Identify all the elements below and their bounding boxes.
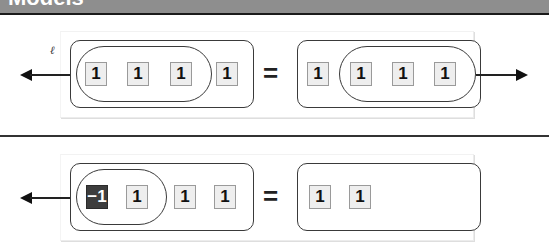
unit-tile: 1: [350, 62, 372, 86]
unit-tile: 1: [170, 62, 192, 86]
unit-tile: 1: [126, 185, 148, 209]
arrow-right-line: [476, 74, 518, 76]
section-title: Models: [8, 0, 84, 9]
unit-tile: 1: [216, 62, 238, 86]
negative-unit-tile: −1: [86, 185, 108, 209]
unit-tile: 1: [214, 185, 236, 209]
arrow-label: ℓ: [50, 44, 55, 57]
unit-tile: 1: [349, 185, 371, 209]
header-rule: [0, 13, 549, 15]
equals-sign: =: [263, 183, 278, 209]
divider: [0, 135, 549, 137]
unit-tile: 1: [392, 62, 414, 86]
unit-tile: 1: [434, 62, 456, 86]
equals-sign: =: [263, 60, 278, 86]
arrow-right-icon: [516, 69, 528, 81]
unit-tile: 1: [127, 62, 149, 86]
section-header: Models: [0, 0, 549, 13]
unit-tile: 1: [307, 62, 329, 86]
unit-tile: 1: [85, 62, 107, 86]
unit-tile: 1: [309, 185, 331, 209]
unit-tile: 1: [174, 185, 196, 209]
